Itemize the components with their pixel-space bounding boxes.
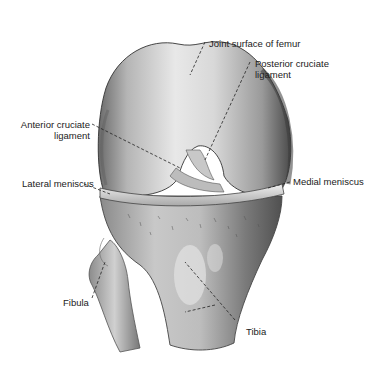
label-tibia: Tibia [246,326,266,337]
label-fibula: Fibula [63,297,89,308]
label-joint-surface-femur: Joint surface of femur [209,38,300,49]
label-anterior-cruciate-ligament: Anterior cruciate ligament [18,119,90,141]
label-line: ligament [255,69,329,80]
label-posterior-cruciate-ligament: Posterior cruciate ligament [255,58,329,80]
label-medial-meniscus: Medial meniscus [293,176,364,187]
label-line: Anterior cruciate [18,119,90,130]
knee-anatomy-illustration [0,0,377,379]
label-lateral-meniscus: Lateral meniscus [22,178,94,189]
label-line: Posterior cruciate [255,58,329,69]
label-line: ligament [18,130,90,141]
